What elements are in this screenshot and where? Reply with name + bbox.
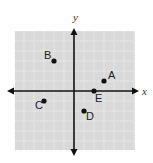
y-axis-down-arrow-icon	[71, 149, 78, 156]
x-axis-label: x	[141, 85, 147, 97]
point-label-d: D	[86, 110, 94, 122]
point-label-a: A	[108, 69, 116, 81]
x-axis-left-arrow-icon	[7, 88, 14, 95]
point-label-b: B	[44, 49, 51, 61]
y-axis-label: y	[72, 11, 78, 23]
x-axis-right-arrow-icon	[132, 88, 139, 95]
point-label-e: E	[95, 92, 102, 104]
coordinate-plane: x y ABCDE	[0, 0, 153, 163]
point-label-c: C	[35, 99, 43, 111]
point-b	[51, 58, 56, 63]
point-a	[101, 78, 106, 83]
